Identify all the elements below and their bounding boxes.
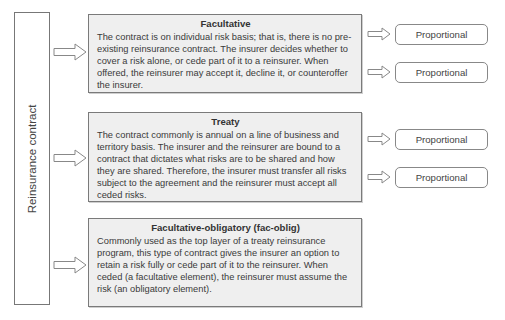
reinsurance-contract-label: Reinsurance contract [26, 104, 38, 213]
treaty-description: The contract commonly is annual on a lin… [97, 129, 354, 202]
treaty-card: Treaty The contract commonly is annual o… [88, 112, 362, 202]
fac-oblig-title: Facultative-obligatory (fac-oblig) [97, 222, 354, 233]
fac-oblig-card: Facultative-obligatory (fac-oblig) Commo… [88, 218, 362, 307]
block-arrow-right-icon [53, 149, 87, 167]
treaty-outcome-1: Proportional [395, 129, 488, 150]
facultative-outcome-2: Proportional [395, 62, 488, 83]
small-arrow-right-icon [367, 170, 391, 184]
facultative-card: Facultative The contract is on individua… [88, 14, 362, 93]
facultative-outcome-1: Proportional [395, 24, 488, 45]
block-arrow-right-icon [53, 256, 87, 274]
facultative-title: Facultative [97, 18, 354, 29]
facultative-description: The contract is on individual risk basis… [97, 31, 354, 91]
treaty-outcome-2: Proportional [395, 167, 488, 188]
fac-oblig-description: Commonly used as the top layer of a trea… [97, 235, 354, 295]
small-arrow-right-icon [367, 27, 391, 41]
small-arrow-right-icon [367, 132, 391, 146]
small-arrow-right-icon [367, 65, 391, 79]
reinsurance-contract-box: Reinsurance contract [14, 12, 50, 305]
treaty-title: Treaty [97, 116, 354, 127]
block-arrow-right-icon [53, 43, 87, 61]
